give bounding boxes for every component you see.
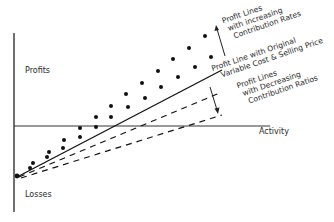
losses-label: Losses (25, 190, 52, 199)
profit-line-original (17, 70, 222, 177)
profits-label: Profits (25, 66, 50, 75)
profit-line-increasing-upper (31, 34, 207, 165)
activity-label: Activity (259, 127, 289, 136)
profit-volume-diagram: Profits Losses Activity (0, 0, 334, 222)
arrow-up-icon (215, 25, 226, 56)
profit-line-increasing-lower (28, 55, 213, 170)
profit-line-decreasing-2 (21, 115, 222, 178)
origin-point (15, 174, 20, 179)
arrow-down-icon (210, 87, 220, 114)
annotation-increasing: Profit Lines with increasing Contributio… (221, 0, 303, 42)
profit-line-decreasing-1 (19, 92, 222, 177)
